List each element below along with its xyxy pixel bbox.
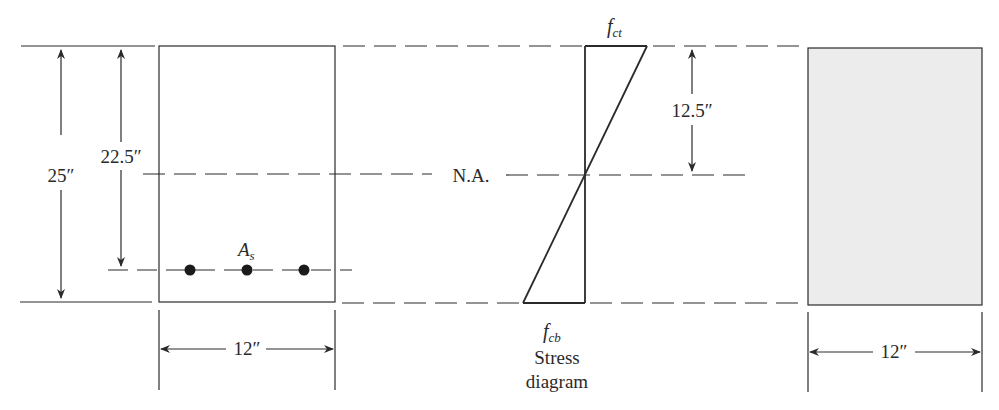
stress-diagram-caption-line2: diagram	[526, 371, 588, 392]
effective-depth-label: 22.5″	[100, 146, 141, 167]
depth-label: 25″	[48, 165, 75, 186]
stress-diagram-caption-line1: Stress	[534, 347, 579, 368]
neutral-axis-label: N.A.	[453, 165, 490, 186]
beam-stress-diagram: As 25″ 22.5″ 12″ fct fcb Stress diagram …	[0, 0, 999, 410]
top-stress-label: fct	[607, 15, 622, 40]
bottom-stress-label: fcb	[543, 320, 561, 345]
steel-bar	[299, 265, 310, 276]
bottom-reference-line	[20, 302, 800, 303]
steel-bar	[242, 265, 253, 276]
section-width-label: 12″	[234, 338, 261, 359]
steel-area-label: As	[236, 239, 255, 263]
transformed-section	[808, 48, 982, 305]
transformed-width-label: 12″	[881, 341, 908, 362]
steel-bar	[185, 265, 196, 276]
na-distance-label: 12.5″	[671, 100, 712, 121]
